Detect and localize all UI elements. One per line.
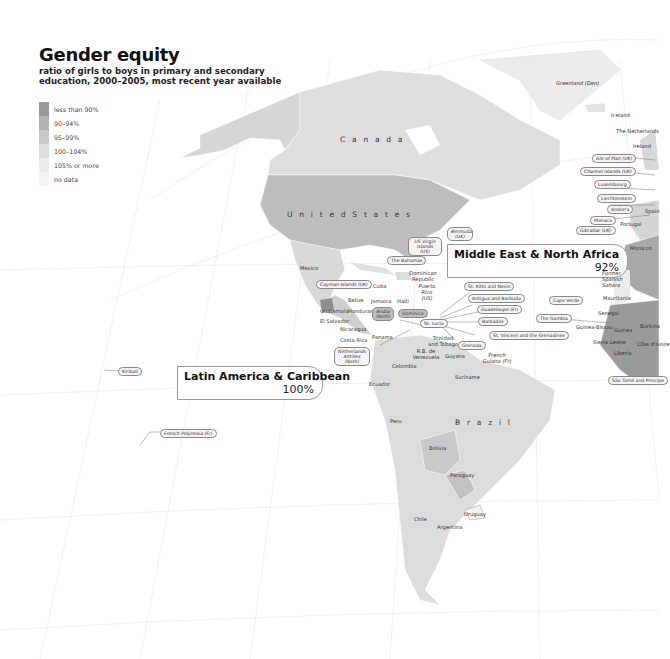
callout-mena: Middle East & North Africa 92% [447, 244, 628, 278]
label-puerto-rico: Puerto Rico (US) [416, 283, 438, 301]
legend: less than 90% 90–94% 95–99% 100–104% 105… [39, 102, 99, 186]
label-ecuador: Ecuador [369, 381, 390, 387]
label-iceland: Iceland [611, 112, 630, 118]
pill-dominica: Dominica [398, 309, 428, 318]
label-bolivia: Bolivia [429, 445, 446, 451]
pill-aruba: Aruba (Neth) [372, 307, 394, 321]
label-trinidad: Trinidad and Tobago [428, 335, 458, 347]
label-brazil: B r a z i l [455, 418, 512, 427]
legend-item: 100–104% [39, 144, 99, 158]
legend-swatch [39, 130, 49, 144]
label-guatemala: Guatemala [320, 308, 349, 314]
label-senegal: Senegal [598, 310, 619, 316]
label-haiti: Haiti [397, 298, 409, 304]
alaska [180, 92, 300, 158]
label-honduras: Honduras [348, 308, 373, 314]
label-western-sahara: Former Spanish Sahara [602, 270, 632, 288]
label-sierra-leone: Sierra Leone [593, 339, 626, 345]
label-french-guiana: French Guiana (Fr) [482, 352, 512, 364]
pill-channel-islands: Channel Islands (UK) [580, 167, 636, 176]
label-paraguay: Paraguay [450, 472, 474, 478]
label-guinea: Guinea [614, 327, 632, 333]
pill-gambia: The Gambia [536, 314, 572, 323]
label-belize: Belize [348, 297, 364, 303]
label-mauritania: Mauritania [603, 295, 631, 301]
pill-luxembourg: Luxembourg [594, 180, 631, 189]
label-ireland: Ireland [633, 143, 651, 149]
pill-barbados: Barbados [478, 317, 508, 326]
legend-item: 90–94% [39, 116, 99, 130]
label-burkina: Burkina [640, 323, 660, 329]
label-jamaica: Jamaica [371, 298, 391, 304]
pill-guadeloupe: Guadeloupe (Fr) [477, 305, 522, 314]
label-spain: Spain [645, 208, 660, 214]
label-costa-rica: Costa Rica [340, 337, 367, 343]
pill-bermuda: Bermuda (UK) [447, 227, 473, 241]
label-canada: C a n a d a [340, 135, 405, 144]
label-venezuela: R.B. de Venezuela [412, 348, 440, 360]
label-mexico: Mexico [300, 265, 318, 271]
label-uruguay: Uruguay [464, 511, 486, 517]
label-el-salvador: El Salvador [320, 318, 349, 324]
mexico [290, 240, 345, 305]
label-argentina: Argentina [437, 524, 462, 530]
legend-swatch [39, 102, 49, 116]
legend-swatch [39, 144, 49, 158]
pill-sao-tome: São Tomé and Principe [608, 376, 668, 385]
legend-item: 95–99% [39, 130, 99, 144]
iberia [630, 200, 659, 240]
label-guyana: Guyana [445, 353, 465, 359]
pill-liechtenstein: Liechtenstein [597, 194, 636, 203]
pill-cape-verde: Cape Verde [549, 296, 583, 305]
iceland [585, 103, 605, 112]
label-suriname: Suriname [455, 374, 480, 380]
legend-item: no data [39, 172, 99, 186]
map-subtitle: ratio of girls to boys in primary and se… [39, 66, 299, 86]
pill-st-vincent: St. Vincent and the Grenadines [489, 331, 569, 340]
label-morocco: Morocco [630, 245, 652, 251]
legend-swatch [39, 116, 49, 130]
label-guinea-bissau: Guinea-Bissau [576, 324, 613, 330]
label-liberia: Liberia [614, 350, 632, 356]
pill-st-kitts: St. Kitts and Nevis [464, 282, 514, 291]
pill-antigua: Antigua and Barbuda [468, 294, 525, 303]
legend-item: less than 90% [39, 102, 99, 116]
legend-item: 105% or more [39, 158, 99, 172]
pill-bahamas: The Bahamas [387, 256, 426, 265]
label-netherlands: The Netherlands [616, 128, 659, 134]
pill-cayman: Cayman Islands (UK) [316, 280, 372, 289]
label-nicaragua: Nicaragua [340, 326, 366, 332]
pill-gibraltar: Gibraltar (UK) [576, 226, 616, 235]
label-usa: U n i t e d S t a t e s [287, 210, 412, 219]
label-cote-divoire: Côte d'Ivoire [637, 341, 670, 347]
pill-french-polynesia: French Polynesia (Fr) [160, 429, 217, 438]
callout-lac: Latin America & Caribbean 100% [177, 366, 323, 400]
pill-st-lucia: St. Lucia [420, 319, 448, 328]
pill-netherlands-antilles: Netherlands Antilles (Neth) [334, 347, 370, 366]
label-peru: Peru [390, 418, 402, 424]
label-dominican-republic: Dominican Republic [405, 270, 441, 282]
legend-swatch [39, 172, 49, 186]
pill-isle-of-man: Isle of Man (UK) [592, 154, 636, 163]
pill-grenada: Grenada [458, 341, 486, 350]
pill-us-virgin: US Virgin Islands (US) [408, 237, 442, 256]
label-greenland: Greenland (Den) [556, 80, 599, 86]
label-cuba: Cuba [373, 283, 386, 289]
map-title: Gender equity [39, 44, 180, 65]
legend-swatch [39, 158, 49, 172]
label-chile: Chile [414, 516, 427, 522]
uk-ireland [640, 130, 659, 170]
label-colombia: Colombia [392, 363, 416, 369]
pill-kiribati: Kiribati [118, 367, 142, 376]
label-panama: Panama [372, 334, 393, 340]
label-portugal: Portugal [620, 221, 641, 227]
pill-monaco: Monaco [590, 216, 616, 225]
pill-andorra: Andorra [607, 205, 633, 214]
